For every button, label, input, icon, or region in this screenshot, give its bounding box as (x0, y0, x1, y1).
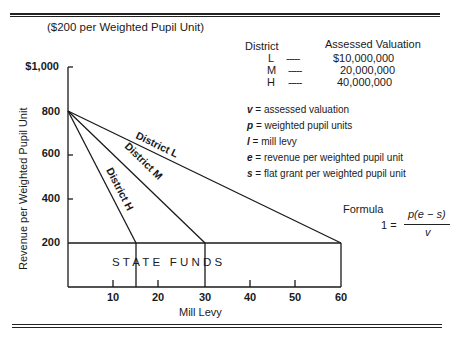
bottom-rule (12, 324, 442, 325)
bottom-rule-2 (12, 327, 442, 329)
plot-area: District L District M District H (0, 0, 468, 337)
